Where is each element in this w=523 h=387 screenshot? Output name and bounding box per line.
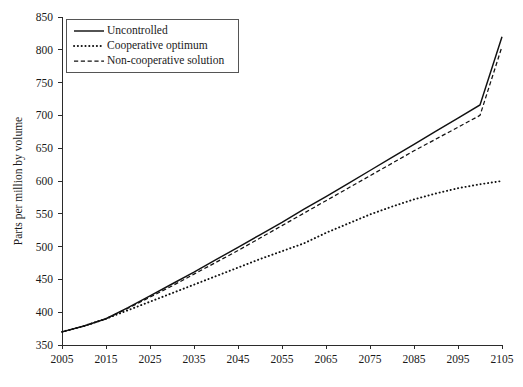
x-tick-label: 2095 — [447, 353, 470, 365]
y-tick-label: 400 — [36, 306, 54, 318]
y-tick-label: 650 — [36, 142, 54, 154]
y-tick-label: 700 — [36, 109, 54, 121]
x-tick-label: 2075 — [359, 353, 382, 365]
x-tick-label: 2045 — [227, 353, 250, 365]
y-tick-label: 550 — [36, 208, 54, 220]
y-tick-label: 450 — [36, 273, 54, 285]
x-tick-label: 2025 — [139, 353, 162, 365]
legend-label-0: Uncontrolled — [107, 24, 168, 36]
y-tick-label: 800 — [36, 44, 54, 56]
y-axis-title: Parts per million by volume — [12, 117, 25, 245]
y-tick-label: 750 — [36, 77, 54, 89]
x-tick-label: 2015 — [95, 353, 118, 365]
chart-legend[interactable]: UncontrolledCooperative optimumNon-coope… — [66, 19, 238, 72]
y-tick-label: 850 — [36, 11, 54, 23]
x-tick-label: 2105 — [491, 353, 514, 365]
y-tick-label: 500 — [36, 241, 54, 253]
x-tick-label: 2085 — [403, 353, 426, 365]
y-tick-label: 350 — [36, 339, 54, 351]
x-tick-label: 2035 — [183, 353, 206, 365]
line-chart: 350400450500550600650700750800850 200520… — [0, 0, 523, 387]
y-tick-label: 600 — [36, 175, 54, 187]
x-tick-label: 2005 — [51, 353, 74, 365]
x-tick-label: 2055 — [271, 353, 294, 365]
legend-label-1: Cooperative optimum — [107, 39, 208, 52]
x-tick-label: 2065 — [315, 353, 338, 365]
legend-label-2: Non-cooperative solution — [107, 54, 224, 67]
chart-container: 350400450500550600650700750800850 200520… — [0, 0, 523, 387]
